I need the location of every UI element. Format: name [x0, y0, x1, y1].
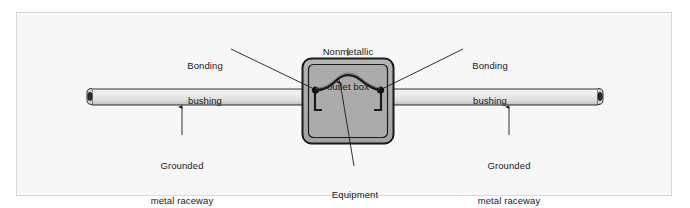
label-outlet-box-line1: Nonmetallic — [304, 46, 392, 58]
leader-bonding-bushing-right — [384, 49, 463, 88]
label-grounded-metal-raceway-right: Grounded metal raceway — [466, 137, 552, 208]
label-raceway-left-line2: metal raceway — [139, 195, 225, 207]
label-nonmetallic-outlet-box: Nonmetallic outlet box — [304, 23, 392, 115]
label-bonding-bushing-right: Bonding bushing — [461, 37, 519, 129]
label-bonding-bushing-left: Bonding bushing — [176, 37, 234, 129]
label-bushing-right-line1: Bonding — [461, 60, 519, 72]
label-raceway-left-line1: Grounded — [139, 160, 225, 172]
label-bushing-right-line2: bushing — [461, 95, 519, 107]
label-equipment-bonding-jumper: Equipment bonding jumper — [307, 166, 403, 208]
figure-container: Nonmetallic outlet box Bonding bushing B… — [0, 0, 690, 208]
label-raceway-right-line1: Grounded — [466, 160, 552, 172]
leader-bonding-bushing-left — [231, 49, 312, 88]
label-raceway-right-line2: metal raceway — [466, 195, 552, 207]
label-bushing-left-line2: bushing — [176, 95, 234, 107]
label-jumper-line1: Equipment — [307, 189, 403, 201]
label-outlet-box-line2: outlet box — [304, 81, 392, 93]
label-bushing-left-line1: Bonding — [176, 60, 234, 72]
label-grounded-metal-raceway-left: Grounded metal raceway — [139, 137, 225, 208]
